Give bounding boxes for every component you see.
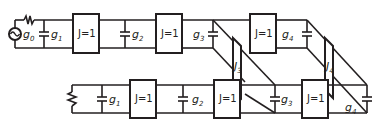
bottom-filter: g1 J=1 g2 J=1 g3 J=1 (68, 80, 372, 118)
circuit-diagram: g0 g1 J=1 g2 J=1 (0, 0, 380, 128)
capacitor-icon (39, 20, 49, 48)
label-g2: g2 (192, 93, 204, 108)
capacitor-icon (270, 85, 280, 113)
label-g1: g1 (109, 93, 120, 108)
inverter-label: J=1 (306, 93, 325, 104)
label-g1: g1 (51, 28, 62, 43)
capacitor-icon (120, 20, 130, 48)
inverter-label: J=1 (77, 28, 96, 39)
label-g3: g3 (281, 93, 292, 108)
source-resistor-icon (24, 16, 34, 24)
ac-source-icon (9, 28, 21, 40)
inverter-label: J=1 (160, 28, 179, 39)
inverter-label: J=1 (254, 28, 273, 39)
label-g3: g3 (193, 28, 204, 43)
inverter-label: J=1 (218, 93, 237, 104)
capacitor-icon (178, 85, 188, 113)
label-g2: g2 (132, 28, 144, 43)
label-g4: g4 (282, 28, 293, 43)
label-g0: g0 (23, 28, 35, 43)
inverter-label: J=1 (134, 93, 153, 104)
label-g4: g4 (345, 101, 356, 116)
top-filter: g0 g1 J=1 g2 J=1 (9, 14, 312, 53)
capacitor-icon (97, 85, 107, 113)
load-resistor-icon (68, 92, 76, 106)
